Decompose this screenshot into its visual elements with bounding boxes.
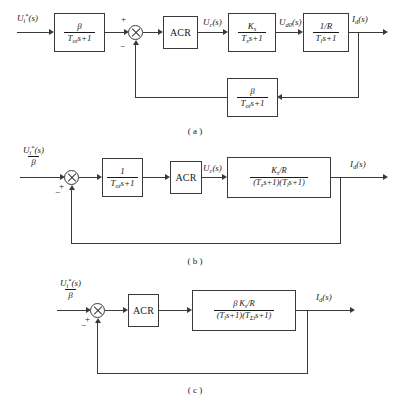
sum-plus-sign-a: + [121,15,126,24]
converter-transfer-function-a: Ks Tss+1 [238,21,266,44]
input-wire-b [20,177,62,178]
output-wire-c [296,310,352,311]
feedback-up-wire-a [135,44,136,97]
output-signal-label-c: Id(s) [316,292,332,303]
caption-b: ( b ) [175,256,215,266]
feedback-up-wire-c [97,322,98,373]
input-filter-transfer-function-a: β Tois+1 [64,21,94,43]
input-filter-block-b: 1 Tois+1 [102,158,143,197]
output-arrowhead-c [350,307,355,313]
input-signal-label-b: Ui*(s) β [20,144,47,167]
converter-block-a: Ks Tss+1 [228,13,276,52]
plant-transfer-function-c: β Ks/R (Tls+1)(TΣis+1) [214,299,274,321]
plant-block-c: β Ks/R (Tls+1)(TΣis+1) [192,290,296,331]
plant-transfer-function-a: 1/R Tls+1 [313,21,340,43]
converter-to-plant-wire-a [276,32,300,33]
acr-block-a: ACR [163,16,198,49]
feedback-down-wire-a [358,32,359,97]
caption-c: ( c ) [175,385,215,395]
feedback-sum-arrowhead-c [95,318,101,323]
output-wire-a [349,32,385,33]
ud0-signal-label-a: Ud0(s) [279,17,301,28]
feedback-horizontal-wire-c [97,373,308,374]
feedback-right-segment-a [281,97,359,98]
summing-junction-b [64,170,79,185]
feedback-transfer-function-a: β Tois+1 [237,86,267,108]
acr-label-b: ACR [175,172,196,183]
acr-label-a: ACR [170,27,191,38]
output-signal-label-a: Id(s) [352,14,368,25]
feedback-left-segment-a [135,97,227,98]
acr-block-c: ACR [128,294,159,327]
input-wire-c [57,310,88,311]
summing-junction-c [90,303,105,318]
input-fraction-b: Ui*(s) β [20,144,47,167]
sum-minus-sign-c: − [81,321,86,330]
uc-signal-label-b: Uc(s) [203,163,222,174]
feedback-up-wire-b [71,189,72,243]
output-signal-label-b: Id(s) [350,159,366,170]
feedback-down-wire-c [307,310,308,373]
sum-to-acr-wire-c [105,310,125,311]
summing-junction-a [128,25,143,40]
feedback-horizontal-wire-b [71,243,341,244]
caption-a: ( a ) [175,126,215,136]
filter-to-acr-wire-b [143,177,167,178]
feedback-sum-arrowhead-b [69,185,75,190]
acr-block-b: ACR [170,161,202,194]
acr-to-plant-wire-b [202,177,224,178]
input-filter-transfer-function-b: 1 Tois+1 [107,166,137,188]
output-arrowhead-b [383,174,388,180]
feedback-block-a: β Tois+1 [227,78,278,117]
input-filter-block-a: β Tois+1 [54,13,105,52]
input-fraction-c: Ui*(s) β [57,277,84,300]
sum-minus-sign-b: − [55,188,60,197]
sum-minus-sign-a: − [120,42,125,51]
acr-label-c: ACR [133,305,154,316]
plant-block-a: 1/R Tls+1 [303,13,349,52]
feedback-down-wire-b [340,177,341,243]
acr-to-plant-wire-c [159,310,189,311]
input-wire-a [17,32,50,33]
feedback-sum-arrowhead-a [133,40,139,45]
acr-to-converter-wire-a [198,32,225,33]
uc-signal-label-a: Uc(s) [203,17,222,28]
sum-to-filter-wire-b [79,177,99,178]
plant-transfer-function-b: Ks/R (Tss+1)(Tls+1) [250,166,308,188]
input-signal-label-c: Ui*(s) β [57,277,84,300]
plant-block-b: Ks/R (Tss+1)(Tls+1) [227,157,331,198]
input-signal-label-a: Ui*(s) [17,12,38,24]
output-arrowhead-a [383,29,388,35]
filter-to-sum-wire-a [105,32,126,33]
